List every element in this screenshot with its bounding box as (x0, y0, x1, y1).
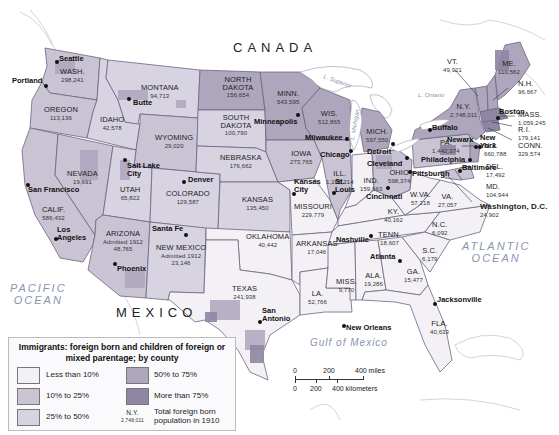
state-label-sd: SOUTH DAKOTA100,790 (218, 114, 254, 136)
state-label-vt: VT.49,921 (443, 58, 462, 73)
state-label-nh: N.H.96,667 (518, 80, 537, 95)
state-label-ga: GA.15,477 (404, 268, 423, 283)
state-label-mo: MISSOURI229,779 (294, 203, 332, 218)
city-salt-lake-city: Salt Lake City (127, 162, 169, 177)
ocean-label-gulf: Gulf of Mexico (310, 337, 388, 348)
svg-text:L. Ontario: L. Ontario (418, 92, 445, 98)
city-dot (182, 180, 186, 184)
legend-swatch-25to50 (17, 409, 40, 426)
city-dot (398, 259, 402, 263)
state-label-ia: IOWA273,765 (290, 150, 312, 165)
legend-swatch-10to25 (17, 388, 40, 405)
legend-swatch-gt75 (126, 388, 149, 405)
city-dot (405, 156, 409, 160)
state-label-in: IND.159,663 (360, 177, 382, 192)
city-dot (44, 84, 48, 88)
ocean-label-atlantic: ATLANTIC OCEAN (462, 240, 530, 264)
state-label-id: IDAHO42,578 (100, 116, 124, 131)
city-new-orleans: New Orleans (346, 324, 391, 332)
legend-swatch-50to75 (126, 367, 149, 384)
legend-sample-state: N.Y.2,748,011 (121, 409, 144, 423)
city-phoenix: Phoenix (117, 265, 146, 273)
state-label-la: LA.52,766 (308, 290, 327, 305)
city-dot (345, 137, 349, 141)
city-portland: Portland (12, 77, 42, 85)
city-newark: Newark (447, 136, 474, 144)
state-label-ok: OKLAHOMA40,442 (246, 233, 289, 248)
city-detroit: Detroit (367, 148, 391, 156)
legend-label: 50% to 75% (154, 370, 197, 379)
city-st-louis: St. Louis (335, 178, 361, 193)
city-chicago: Chicago (320, 151, 350, 159)
state-label-ut: UTAH65,822 (120, 186, 140, 201)
city-kansas-city: Kansas City (294, 178, 324, 193)
state-label-nd: NORTH DAKOTA156,654 (220, 76, 256, 98)
city-philadelphia: Philadelphia (421, 156, 465, 164)
city-new-york: New York (480, 134, 504, 149)
label-washington-dc: Washington, D.C.24,902 (480, 203, 548, 218)
state-label-tx: TEXAS241,938 (232, 285, 257, 300)
city-dot (496, 116, 500, 120)
state-label-md: MD.104,944 (486, 183, 508, 198)
state-label-wy: WYOMING29,020 (155, 134, 193, 149)
country-label-canada: CANADA (233, 40, 317, 55)
city-dot (386, 186, 390, 190)
city-milwaukee: Milwaukee (305, 134, 343, 142)
city-nashville: Nashville (336, 236, 369, 244)
state-label-ny: N.Y.2,748,011 (450, 103, 477, 118)
state-label-nm: NEW MEXICOAdmitted 191223,146 (156, 244, 206, 266)
state-label-fl: FLA.40,633 (430, 320, 449, 335)
city-san-antonio: San Antonio (262, 307, 292, 322)
state-label-nc: N.C.6,092 (432, 221, 448, 236)
legend-label: 10% to 25% (46, 391, 89, 400)
scale-bar: 0 200 400 miles 0 200 400 kilometers (293, 367, 413, 407)
city-denver: Denver (188, 176, 213, 184)
city-pittsburgh: Pittsburgh (412, 170, 450, 178)
city-baltimore: Baltimore (462, 164, 497, 172)
legend-title: Immigrants: foreign born and children of… (9, 342, 235, 363)
city-jacksonville: Jacksonville (437, 296, 482, 304)
state-label-me: ME.110,562 (498, 60, 520, 75)
map-legend: Immigrants: foreign born and children of… (8, 337, 236, 431)
legend-label: Less than 10% (46, 370, 99, 379)
city-dot (127, 97, 131, 101)
city-dot (184, 233, 188, 237)
state-label-or: OREGON113,136 (44, 106, 78, 121)
state-label-ar: ARKANSAS17,046 (296, 240, 338, 255)
city-buffalo: Buffalo (432, 124, 458, 132)
city-los-angeles: Los Angeles (57, 226, 87, 241)
city-seattle: Seattle (59, 55, 84, 63)
city-butte: Butte (133, 99, 152, 107)
state-label-mt: MONTANA94,713 (141, 84, 179, 99)
city-dot (468, 158, 472, 162)
legend-label: More than 75% (154, 391, 208, 400)
city-boston: Boston (499, 108, 525, 116)
state-label-wv: W.VA.57,218 (410, 191, 431, 206)
ocean-label-pacific: PACIFIC OCEAN (10, 282, 67, 306)
state-label-tn: TENN.18,607 (378, 231, 401, 246)
state-label-al: ALA.19,286 (364, 272, 383, 287)
legend-sample-desc: Total foreign born population in 1910 (154, 407, 234, 425)
state-label-mi: MICH.597,550 (366, 128, 388, 143)
city-minneapolis: Minneapolis (254, 118, 297, 126)
country-label-mexico: MEXICO (116, 305, 197, 320)
state-label-ne: NEBRASKA176,662 (220, 154, 262, 169)
state-label-ca: CALIF.586,432 (42, 206, 65, 221)
state-label-va: VA.27,057 (438, 193, 457, 208)
city-santa-fe: Santa Fe (152, 225, 183, 233)
state-label-sc: S.C.6,179 (422, 247, 438, 262)
city-cincinnati: Cincinnati (366, 193, 402, 201)
state-label-ms: MISS.9,770 (336, 278, 357, 293)
state-label-mn: MINN.543,595 (277, 90, 299, 105)
city-san-francisco: San Francisco (28, 186, 79, 194)
state-label-nv: NEVADA19,691 (67, 170, 98, 185)
legend-label: 25% to 50% (46, 412, 89, 421)
legend-swatch-lt10 (17, 367, 40, 384)
city-cleveland: Cleveland (367, 160, 402, 168)
state-label-wi: WIS.512,865 (318, 110, 340, 125)
state-label-ri: R.I.179,141 (518, 126, 540, 141)
state-label-ky: KY.40,162 (384, 208, 403, 223)
state-label-az: ARIZONAAdmitted 191248,765 (103, 230, 143, 252)
city-dot (369, 234, 373, 238)
state-label-co: COLORADO129,587 (166, 190, 210, 205)
